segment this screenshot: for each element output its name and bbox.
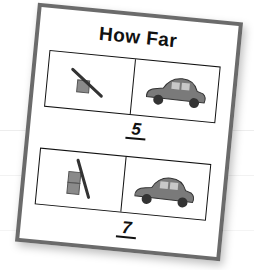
ramp-cell	[36, 149, 125, 212]
ramp-two-blocks-icon	[36, 149, 125, 212]
ramp-one-block-icon	[45, 51, 134, 114]
car-cell	[120, 157, 210, 220]
distance-answer-2: 7	[116, 218, 138, 239]
car-icon	[121, 157, 210, 220]
car-cell	[129, 59, 219, 122]
car-icon	[130, 59, 219, 122]
how-far-worksheet-card: How Far 5	[15, 3, 243, 262]
trial-row-1	[44, 50, 221, 123]
distance-answer-1: 5	[125, 120, 147, 141]
ramp-cell	[45, 51, 134, 114]
trial-row-2	[35, 148, 212, 221]
